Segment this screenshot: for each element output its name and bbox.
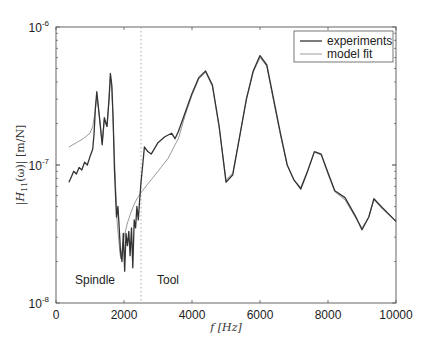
y-axis-label: |H11(ω)| [m/N] xyxy=(14,125,29,206)
legend-label-model-fit: model fit xyxy=(327,47,373,61)
x-tick-labels: 0200040006000800010000 xyxy=(53,308,413,322)
x-tick-label: 6000 xyxy=(247,308,274,322)
spindle-label: Spindle xyxy=(75,273,115,287)
axis-ticks xyxy=(56,27,396,303)
tool-label: Tool xyxy=(157,273,179,287)
y-tick-label: 10-8 xyxy=(29,295,50,311)
plot-border xyxy=(56,27,396,303)
x-axis-label: f [Hz] xyxy=(209,321,242,334)
model-fit-line xyxy=(69,58,396,259)
experiments-line xyxy=(69,56,396,272)
y-tick-label: 10-7 xyxy=(29,157,50,173)
x-tick-label: 4000 xyxy=(179,308,206,322)
x-tick-label: 2000 xyxy=(111,308,138,322)
legend-label-experiments: experiments xyxy=(327,34,392,48)
frequency-response-chart: Spindle Tool 0200040006000800010000 10-8… xyxy=(0,0,428,349)
y-tick-labels: 10-810-710-6 xyxy=(29,19,50,311)
x-axis-label-text: f [Hz] xyxy=(209,321,242,334)
legend: experiments model fit xyxy=(294,31,393,62)
x-tick-label: 0 xyxy=(53,308,60,322)
plot-area xyxy=(56,27,396,303)
y-tick-label: 10-6 xyxy=(29,19,50,35)
x-tick-label: 8000 xyxy=(315,308,342,322)
x-tick-label: 10000 xyxy=(379,308,413,322)
